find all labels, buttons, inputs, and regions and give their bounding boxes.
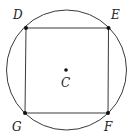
- label-E: E: [110, 8, 120, 22]
- vertex-point-E: [107, 26, 111, 30]
- label-D: D: [12, 8, 23, 22]
- vertex-point-F: [106, 111, 110, 115]
- label-F: F: [103, 120, 113, 134]
- diagram: D E F G C: [0, 0, 132, 138]
- label-G: G: [12, 120, 22, 134]
- vertex-point-G: [23, 111, 27, 115]
- center-point: [64, 68, 68, 72]
- vertex-point-D: [24, 26, 28, 30]
- label-C: C: [61, 76, 70, 90]
